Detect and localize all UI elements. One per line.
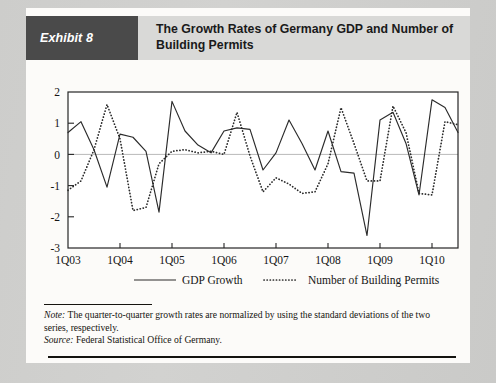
footnote-block: Note: The quarter-to-quarter growth rate…	[44, 304, 454, 346]
x-tick-label: 1Q03	[55, 254, 81, 266]
x-tick-label: 1Q08	[315, 254, 341, 266]
page-background: Exhibit 8 The Growth Rates of Germany GD…	[0, 0, 496, 383]
chart-container: 210-1-2-3 1Q031Q041Q051Q061Q071Q081Q091Q…	[26, 60, 470, 300]
x-tick-label: 1Q04	[107, 254, 133, 266]
y-tick-label: -2	[50, 211, 60, 223]
legend-label-gdp: GDP Growth	[182, 274, 243, 286]
exhibit-badge: Exhibit 8	[26, 16, 138, 60]
y-tick-label: 2	[54, 86, 60, 98]
source-line: Source: Federal Statistical Office of Ge…	[44, 334, 454, 346]
y-tick-label: 0	[54, 149, 60, 161]
y-axis-tick-labels: 210-1-2-3	[50, 86, 60, 254]
x-tick-label: 1Q07	[263, 254, 289, 266]
chart-legend: GDP GrowthNumber of Building Permits	[134, 274, 440, 287]
bottom-rule	[48, 356, 456, 358]
legend-label-permits: Number of Building Permits	[308, 274, 440, 287]
x-tick-label: 1Q06	[211, 254, 237, 266]
x-tick-label: 1Q05	[159, 254, 185, 266]
y-tick-label: 1	[54, 117, 60, 129]
note-label: Note:	[44, 309, 65, 320]
exhibit-title: The Growth Rates of Germany GDP and Numb…	[138, 16, 470, 53]
growth-rates-line-chart: 210-1-2-3 1Q031Q041Q051Q061Q071Q081Q091Q…	[26, 60, 470, 300]
x-tick-label: 1Q10	[419, 254, 445, 266]
x-tick-label: 1Q09	[367, 254, 393, 266]
x-axis-tick-labels: 1Q031Q041Q051Q061Q071Q081Q091Q10	[55, 254, 445, 266]
source-text: Federal Statistical Office of Germany.	[73, 334, 221, 345]
exhibit-header: Exhibit 8 The Growth Rates of Germany GD…	[26, 16, 470, 60]
source-label: Source:	[44, 334, 73, 345]
footnote-divider	[44, 304, 152, 305]
exhibit-card: Exhibit 8 The Growth Rates of Germany GD…	[26, 8, 470, 363]
note-text: The quarter-to-quarter growth rates are …	[44, 309, 430, 332]
y-tick-label: -1	[50, 180, 60, 192]
note-line: Note: The quarter-to-quarter growth rate…	[44, 309, 454, 334]
y-tick-label: -3	[50, 242, 60, 254]
